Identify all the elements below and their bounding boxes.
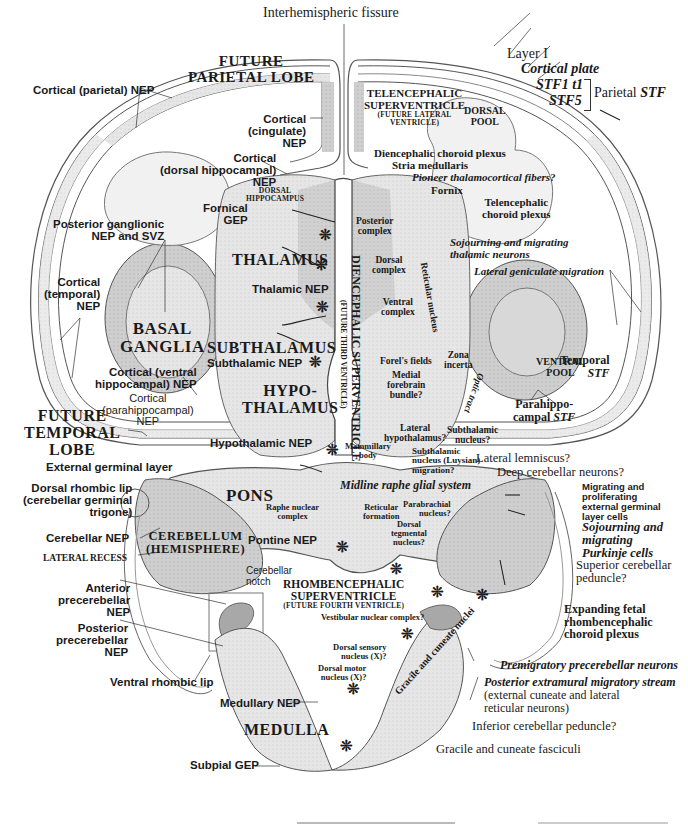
label-line: Anterior	[58, 582, 130, 594]
cortical-cingulate-nep-label: Cortical (cingulate) NEP	[248, 113, 306, 149]
cortical-temporal-nep-label: Cortical (temporal) NEP	[44, 276, 100, 312]
future-third-ventricle-label: (FUTURE THIRD VENTRICLE)	[339, 300, 347, 409]
posterior-complex-label: Posterior complex	[356, 217, 393, 237]
region-text: FUTURE	[188, 54, 314, 70]
label-line: hippocampal) NEP	[95, 378, 197, 390]
migrating-egl-cells-label: Migrating and proliferating external ger…	[582, 482, 661, 522]
ventral-complex-label: Ventral complex	[381, 298, 415, 318]
label-line: Cerebellar	[246, 566, 292, 577]
ventricle-asterisk-icon: ❊	[390, 562, 403, 578]
label-line: peduncle?	[576, 572, 671, 585]
label-line: Cortical	[160, 152, 276, 164]
medial-forebrain-bundle-label: Medial forebrain bundle?	[387, 371, 425, 401]
label-line: Fornical	[203, 202, 248, 214]
telencephalic-superventricle-label: TELENCEPHALIC SUPERVENTRICLE (FUTURE LAT…	[364, 88, 465, 127]
anterior-precerebellar-nep-label: Anterior precerebellar NEP	[58, 582, 130, 618]
lateral-geniculate-migration-label: Lateral geniculate migration	[474, 266, 604, 278]
label-line: NEP	[44, 300, 100, 312]
dorsal-tegmental-nucleus-label: Dorsal tegmental nucleus?	[391, 520, 427, 547]
region-text: RHOMBENCEPHALIC	[283, 578, 404, 590]
label-line: nucleus?	[447, 436, 498, 446]
ventricle-asterisk-icon: ❊	[347, 682, 360, 698]
dorsal-rhombic-lip-label: Dorsal rhombic lip (cerebellar germinal …	[23, 482, 132, 518]
region-text: TELENCEPHALIC	[364, 88, 465, 100]
expanding-choroid-plexus-label: Expanding fetal rhombencephalic choroid …	[564, 603, 653, 641]
ventricle-asterisk-icon: ❊	[326, 443, 339, 459]
ventricle-asterisk-icon: ❊	[315, 258, 328, 274]
parietal-stf-bracket	[584, 79, 591, 111]
label-line: choroid plexus	[564, 628, 653, 641]
label-line: (cingulate)	[248, 125, 306, 137]
label-line: NEP	[248, 137, 306, 149]
diagram-figure: Interhemispheric fissure FUTURE PARIETAL…	[0, 0, 688, 825]
mammillary-body-label: Mammillary body	[345, 442, 391, 460]
label-line: Dorsal rhombic lip	[23, 482, 132, 494]
subthalamic-luysian-migration-label: Subthalamic nucleus (Luysian) migration?	[412, 447, 480, 475]
region-text: TEMPORAL	[24, 425, 120, 442]
thalamus-label: THALAMUS	[232, 252, 328, 269]
posterior-ganglionic-nep-label: Posterior ganglionic NEP and SVZ	[53, 218, 164, 242]
pontine-nep-label: Pontine NEP	[248, 534, 317, 546]
fornix-label: Fornix	[431, 185, 463, 197]
parabrachial-nucleus-label: Parabrachial nucleus?	[403, 500, 451, 518]
cortical-dorsal-hippocampal-nep-label: Cortical (dorsal hippocampal) NEP	[160, 152, 276, 188]
region-text: VENTRICLE)	[364, 119, 465, 127]
label-line: Cortical (ventral	[95, 366, 197, 378]
label-line: Temporal	[560, 354, 610, 367]
zona-incerta-label: Zona incerta	[444, 351, 473, 371]
layer-i-label: Layer I	[507, 47, 548, 62]
label-line: complex	[372, 266, 406, 276]
lateral-recess-label: LATERAL RECESS	[43, 554, 127, 564]
deep-cerebellar-neurons-label: Deep cerebellar neurons?	[497, 466, 624, 479]
region-text: LOBE	[24, 442, 120, 459]
label-line: Cortical	[248, 113, 306, 125]
stria-medullaris-label: Stria medullaris	[392, 160, 468, 172]
region-text: DORSAL	[464, 106, 506, 117]
parietal-stf-label: Parietal STF	[594, 86, 666, 101]
cerebellar-nep-label: Cerebellar NEP	[46, 532, 129, 544]
label-line: NEP	[56, 646, 128, 658]
subpial-gep-label: Subpial GEP	[190, 759, 259, 771]
label-text: STF	[640, 85, 666, 100]
subthalamic-nep-label: Subthalamic NEP	[207, 357, 302, 369]
region-text: PARIETAL LOBE	[188, 70, 314, 86]
region-text: THALAMUS	[242, 400, 338, 417]
rhombencephalic-superventricle-label: RHOMBENCEPHALIC SUPERVENTRICLE (FUTURE F…	[283, 578, 404, 610]
fornical-gep-label: Fornical GEP	[203, 202, 248, 226]
label-line: bundle?	[387, 391, 425, 401]
label-line: (dorsal hippocampal)	[160, 164, 276, 176]
dorsal-sensory-nucleus-label: Dorsal sensory nucleus (X)?	[333, 643, 387, 661]
region-text: POOL	[464, 117, 506, 128]
label-line: campal	[513, 410, 553, 424]
reticular-formation-label: Reticular formation	[363, 503, 399, 521]
sojourning-thalamic-neurons-label: Sojourning and migrating thalamic neuron…	[450, 237, 569, 260]
region-text: HIPPOCAMPUS	[246, 195, 304, 203]
ventricle-asterisk-icon: ❊	[476, 588, 489, 604]
vestibular-nuclear-complex-label: Vestibular nuclear complex?	[321, 613, 424, 622]
label-line: Posterior ganglionic	[53, 218, 164, 230]
pioneer-thalamocortical-fibers-label: Pioneer thalamocortical fibers?	[412, 172, 556, 184]
medulla-label: MEDULLA	[244, 722, 329, 739]
lateral-lemniscus-label: Lateral lemniscus?	[476, 452, 570, 465]
label-line: STF	[553, 410, 575, 424]
cerebellum-hemisphere-label: CEREBELLUM (HEMISPHERE)	[146, 530, 245, 556]
region-text: (FUTURE FOURTH VENTRICLE)	[283, 602, 404, 610]
label-line: migration?	[412, 466, 480, 475]
label-line: incerta	[444, 361, 473, 371]
forels-fields-label: Forel's fields	[380, 357, 432, 367]
label-line: hypothalamus?	[384, 434, 446, 444]
diencephalic-superventricle-label: DIENCEPHALIC SUPERVENTRICLE	[349, 255, 362, 462]
label-line: GEP	[203, 214, 248, 226]
label-line: complex	[266, 512, 319, 521]
label-line: nucleus (X)?	[333, 652, 387, 661]
medullary-nep-label: Medullary NEP	[220, 697, 301, 709]
label-line: precerebellar	[56, 634, 128, 646]
thalamic-nep-label: Thalamic NEP	[252, 283, 329, 295]
label-line: complex	[381, 308, 415, 318]
sojourning-purkinje-cells-label: Sojourning and migrating Purkinje cells	[582, 521, 663, 560]
ventricle-asterisk-icon: ❊	[401, 627, 414, 643]
cortical-parietal-nep-label: Cortical (parietal) NEP	[33, 84, 154, 96]
parahippocampal-stf-label: Parahippo- campal STF	[513, 398, 575, 423]
temporal-stf-label: Temporal STF	[560, 354, 610, 379]
label-line: complex	[356, 227, 393, 237]
